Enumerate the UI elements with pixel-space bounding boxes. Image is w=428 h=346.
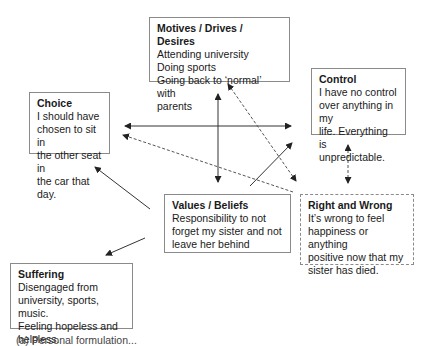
control-line: I have no control — [319, 86, 398, 99]
values-line: forget my sister and not — [172, 225, 283, 238]
suffering-line: Disengaged from — [18, 281, 125, 294]
right-wrong-box: Right and Wrong It’s wrong to feel happi… — [300, 194, 414, 265]
control-box: Control I have no control over anything … — [311, 68, 406, 135]
arrow-values-suffering — [106, 238, 145, 255]
suffering-title: Suffering — [18, 268, 125, 281]
right-wrong-line: happiness or anything — [308, 225, 406, 251]
choice-title: Choice — [37, 97, 102, 110]
control-line: unpredictable. — [319, 151, 398, 164]
values-line: Responsibility to not — [172, 212, 283, 225]
choice-box: Choice I should have chosen to sit in th… — [29, 92, 110, 154]
values-title: Values / Beliefs — [172, 199, 283, 212]
motives-line: Attending university — [157, 48, 282, 61]
control-line: over anything in my — [319, 99, 398, 125]
values-line: leave her behind — [172, 238, 283, 251]
arrow-values-choice — [95, 167, 150, 209]
choice-line: the other seat in — [37, 149, 102, 175]
right-wrong-title: Right and Wrong — [308, 199, 406, 212]
arrow-rightwrong-choice — [123, 135, 293, 192]
figure-caption: (a) Personal formulation... — [16, 334, 137, 346]
arrow-values-control — [250, 143, 292, 186]
motives-box: Motives / Drives / Desires Attending uni… — [149, 17, 290, 82]
suffering-line: Feeling hopeless and — [18, 320, 125, 333]
motives-line: parents — [157, 100, 282, 113]
choice-line: the car that day. — [37, 175, 102, 201]
right-wrong-line: positive now that my — [308, 251, 406, 264]
suffering-line: university, sports, music. — [18, 294, 125, 320]
suffering-box: Suffering Disengaged from university, sp… — [10, 263, 133, 329]
control-line: life. Everything is — [319, 125, 398, 151]
motives-line: Going back to ‘normal’ with — [157, 74, 282, 100]
motives-line: Doing sports — [157, 61, 282, 74]
control-title: Control — [319, 73, 398, 86]
motives-title: Motives / Drives / Desires — [157, 22, 282, 48]
right-wrong-line: sister has died. — [308, 264, 406, 277]
values-box: Values / Beliefs Responsibility to not f… — [164, 194, 291, 253]
choice-line: chosen to sit in — [37, 123, 102, 149]
right-wrong-line: It’s wrong to feel — [308, 212, 406, 225]
choice-line: I should have — [37, 110, 102, 123]
